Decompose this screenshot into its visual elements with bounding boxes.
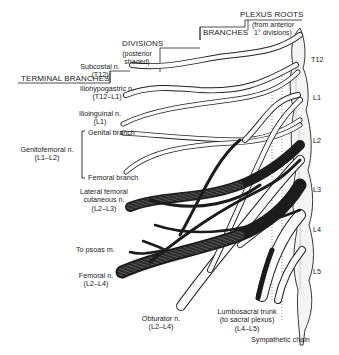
header-branches: BRANCHES (203, 28, 248, 37)
plexus-illustration (0, 0, 339, 355)
plexus-roots-note: (from anterior 1° divisions) (247, 21, 299, 37)
level-l4: L4 (313, 226, 321, 234)
label-subcostal-n: Subcostal n. (T12) (76, 63, 124, 80)
header-divisions: DIVISIONS (122, 39, 163, 48)
label-lateral-femoral-cutaneous-n: Lateral femoral cutaneous n. (L2–L3) (74, 188, 134, 213)
label-genitofemoral-n: Genitofemoral n. (L1–L2) (14, 146, 80, 163)
level-l5: L5 (313, 268, 321, 276)
label-femoral-branch: Femoral branch (88, 174, 138, 182)
header-plexus-roots: PLEXUS ROOTS (240, 10, 303, 19)
level-t12: T12 (311, 56, 323, 64)
level-l1: L1 (313, 94, 321, 102)
label-sympathetic-chain: Sympathetic chain (251, 336, 310, 344)
genitofemoral-bracket (82, 131, 85, 178)
label-iliohypogastric-n: Iliohypogastric n. (T12–L1) (74, 85, 140, 102)
label-femoral-n: Femoral n. (L2–L4) (74, 272, 118, 289)
label-to-psoas-m: To psoas m. (76, 246, 115, 254)
label-obturator-n: Obturator n. (L2–L4) (136, 315, 186, 332)
level-l2: L2 (313, 137, 321, 145)
label-ilioinguinal-n: Ilioinguinal n. (L1) (74, 110, 126, 127)
level-l3: L3 (313, 186, 321, 194)
label-lumbosacral-trunk: Lumbosacral trunk (to sacral plexus) (L4… (212, 308, 282, 333)
label-genital-branch: Genital branch (88, 129, 135, 137)
